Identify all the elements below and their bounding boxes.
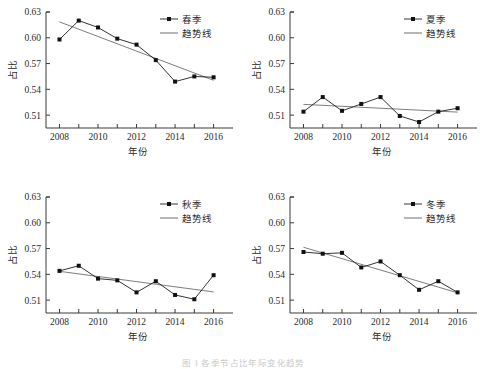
x-axis-title: 年份 [128, 146, 148, 157]
chart-winter: 0.510.540.570.600.6320082010201220142016… [244, 185, 487, 369]
data-point-marker [57, 37, 61, 41]
x-tick-label: 2010 [89, 132, 108, 142]
y-tick-label: 0.51 [24, 296, 41, 306]
legend-series-marker [411, 202, 415, 206]
chart-panel-spring: 0.510.540.570.600.6320082010201220142016… [0, 0, 243, 184]
data-point-marker [359, 102, 363, 106]
chart-panel-summer: 0.510.540.570.600.6320082010201220142016… [244, 0, 487, 184]
data-point-marker [398, 114, 402, 118]
x-tick-label: 2014 [166, 132, 185, 142]
data-point-marker [301, 250, 305, 254]
x-tick-label: 2014 [410, 132, 429, 142]
legend: 夏季趋势线 [404, 14, 456, 39]
x-tick-label: 2012 [371, 317, 390, 327]
y-tick-label: 0.63 [24, 7, 41, 17]
x-tick-label: 2010 [333, 132, 352, 142]
x-tick-label: 2010 [89, 317, 108, 327]
legend-series-marker [167, 17, 171, 21]
data-point-marker [212, 273, 216, 277]
y-tick-label: 0.57 [268, 59, 285, 69]
legend-series-label: 春季 [182, 14, 202, 25]
legend-trend-label: 趋势线 [426, 28, 456, 39]
x-tick-label: 2014 [410, 317, 429, 327]
y-tick-label: 0.54 [24, 85, 41, 95]
data-point-marker [57, 269, 61, 273]
x-tick-label: 2010 [333, 317, 352, 327]
x-tick-label: 2016 [448, 317, 467, 327]
data-point-marker [379, 95, 383, 99]
data-point-marker [96, 25, 100, 29]
data-point-marker [379, 259, 383, 263]
legend: 冬季趋势线 [404, 199, 456, 224]
x-tick-label: 2008 [50, 317, 69, 327]
data-point-marker [436, 279, 440, 283]
y-tick-label: 0.54 [24, 270, 41, 280]
data-point-marker [173, 80, 177, 84]
data-point-marker [212, 75, 216, 79]
y-tick-label: 0.51 [268, 296, 285, 306]
y-tick-label: 0.60 [268, 33, 285, 43]
legend-trend-label: 趋势线 [182, 28, 212, 39]
y-tick-label: 0.63 [24, 192, 41, 202]
chart-panel-winter: 0.510.540.570.600.6320082010201220142016… [244, 185, 487, 369]
y-tick-label: 0.54 [268, 270, 285, 280]
x-tick-label: 2016 [204, 132, 223, 142]
data-point-marker [359, 265, 363, 269]
data-point-marker [77, 19, 81, 23]
legend-trend-label: 趋势线 [426, 213, 456, 224]
data-series-line [303, 97, 457, 122]
data-point-marker [417, 120, 421, 124]
x-tick-label: 2008 [294, 132, 313, 142]
y-tick-label: 0.57 [268, 244, 285, 254]
x-tick-label: 2012 [127, 132, 146, 142]
legend: 春季趋势线 [160, 14, 212, 39]
data-point-marker [173, 293, 177, 297]
chart-spring: 0.510.540.570.600.6320082010201220142016… [0, 0, 243, 184]
y-axis-title: 占比 [251, 245, 262, 265]
y-tick-label: 0.57 [24, 244, 41, 254]
data-point-marker [301, 110, 305, 114]
legend-series-marker [167, 202, 171, 206]
legend-trend-label: 趋势线 [182, 213, 212, 224]
data-point-marker [321, 95, 325, 99]
x-axis-title: 年份 [372, 146, 392, 157]
y-axis-title: 占比 [251, 60, 262, 80]
legend-series-label: 秋季 [182, 199, 202, 210]
x-tick-label: 2016 [448, 132, 467, 142]
data-point-marker [154, 58, 158, 62]
data-point-marker [96, 277, 100, 281]
x-tick-label: 2012 [127, 317, 146, 327]
legend-series-label: 冬季 [426, 199, 446, 210]
trend-line [303, 104, 457, 112]
data-point-marker [135, 43, 139, 47]
data-point-marker [456, 290, 460, 294]
x-tick-label: 2014 [166, 317, 185, 327]
chart-panel-autumn: 0.510.540.570.600.6320082010201220142016… [0, 185, 243, 369]
data-point-marker [192, 297, 196, 301]
x-axis-title: 年份 [128, 331, 148, 342]
trend-line [303, 247, 457, 293]
data-point-marker [115, 278, 119, 282]
x-tick-label: 2016 [204, 317, 223, 327]
x-axis-title: 年份 [372, 331, 392, 342]
data-point-marker [340, 251, 344, 255]
data-point-marker [436, 110, 440, 114]
legend: 秋季趋势线 [160, 199, 212, 224]
y-tick-label: 0.60 [268, 218, 285, 228]
y-tick-label: 0.57 [24, 59, 41, 69]
y-tick-label: 0.63 [268, 7, 285, 17]
y-tick-label: 0.63 [268, 192, 285, 202]
y-axis-title: 占比 [7, 245, 18, 265]
x-tick-label: 2008 [50, 132, 69, 142]
y-tick-label: 0.51 [268, 111, 285, 121]
data-point-marker [77, 264, 81, 268]
y-axis-title: 占比 [7, 60, 18, 80]
legend-series-label: 夏季 [426, 14, 446, 25]
chart-autumn: 0.510.540.570.600.6320082010201220142016… [0, 185, 243, 369]
y-tick-label: 0.60 [24, 218, 41, 228]
data-point-marker [321, 252, 325, 256]
y-tick-label: 0.54 [268, 85, 285, 95]
data-point-marker [456, 106, 460, 110]
data-point-marker [192, 74, 196, 78]
seasonal-proportion-figure: 0.510.540.570.600.6320082010201220142016… [0, 0, 487, 369]
